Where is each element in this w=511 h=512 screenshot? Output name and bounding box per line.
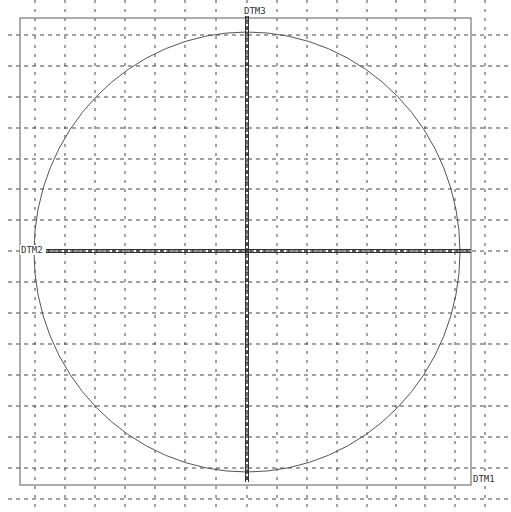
datum-label-dtm2[interactable]: DTM2 bbox=[20, 245, 44, 255]
sketch-canvas[interactable] bbox=[0, 0, 511, 512]
sketch-grid bbox=[8, 0, 511, 512]
datum-axis-dtm2[interactable] bbox=[46, 250, 471, 253]
datum-label-dtm1[interactable]: DTM1 bbox=[472, 474, 496, 484]
datum-label-dtm3[interactable]: DTM3 bbox=[243, 6, 267, 16]
datum-axis-dtm3[interactable] bbox=[246, 8, 249, 482]
